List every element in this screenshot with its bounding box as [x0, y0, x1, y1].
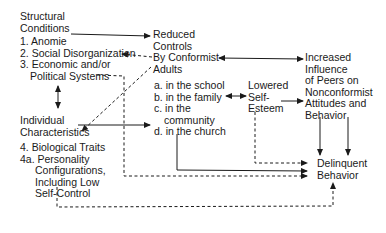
- edge-church-to-delinquent: [177, 134, 307, 171]
- increased-peer-influence: Increased Influence of Peers on Nonconfo…: [305, 52, 373, 121]
- lowered-self-esteem: Lowered Self- Esteem: [248, 80, 288, 115]
- individual-characteristics-list: 4. Biological Traits 4a. Personality Con…: [20, 142, 106, 200]
- title-line: Individual: [20, 115, 89, 127]
- individual-characteristics-title: Individual Characteristics: [20, 115, 89, 138]
- node-line: Behavior: [317, 170, 367, 182]
- edge-controls-peers: [219, 58, 303, 59]
- list-item: 3. Economic and/or: [20, 59, 136, 71]
- list-item: c. in the: [154, 103, 226, 115]
- list-item: 1. Anomie: [20, 36, 136, 48]
- list-item: 4. Biological Traits: [20, 142, 106, 154]
- node-line: Behavior: [305, 110, 373, 122]
- title-line: Conditions: [20, 23, 70, 35]
- list-item: Self-Control: [20, 188, 106, 200]
- title-line: Adults: [153, 64, 219, 76]
- list-item: a. in the school: [154, 80, 226, 92]
- node-line: Lowered: [248, 80, 288, 92]
- structural-conditions-title: Structural Conditions: [20, 11, 70, 34]
- delinquent-behavior: Delinquent Behavior: [317, 158, 367, 181]
- list-item: d. in the church: [154, 126, 226, 138]
- title-line: Characteristics: [20, 127, 89, 139]
- reduced-controls-title: Reduced Controls By Conformist Adults: [153, 29, 219, 75]
- title-line: Structural: [20, 11, 70, 23]
- node-line: Esteem: [248, 103, 288, 115]
- structural-conditions-list: 1. Anomie 2. Social Disorganization 3. E…: [20, 36, 136, 82]
- title-line: By Conformist: [153, 52, 219, 64]
- title-line: Reduced: [153, 29, 219, 41]
- list-item: Configurations,: [20, 165, 106, 177]
- reduced-controls-list: a. in the school b. in the family c. in …: [154, 80, 226, 138]
- node-line: Delinquent: [317, 158, 367, 170]
- node-line: Attitudes and: [305, 98, 373, 110]
- node-line: of Peers on: [305, 75, 373, 87]
- list-item: Political Systems: [20, 71, 136, 83]
- edge-esteem-to-delinquent: [255, 112, 307, 163]
- node-line: Increased: [305, 52, 373, 64]
